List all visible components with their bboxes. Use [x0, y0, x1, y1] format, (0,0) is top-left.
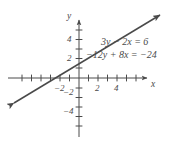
x-tick-label-2: 2 [95, 84, 100, 93]
x-axis [8, 75, 147, 82]
y-axis-label: y [67, 12, 71, 22]
y-tick-label-4: 4 [67, 35, 72, 44]
graph-figure: y x −2 2 4 4 2 −2 −4 3y − 2x = 6 −12y + … [0, 0, 174, 141]
x-axis-label: x [151, 80, 155, 90]
y-tick-label-2: 2 [67, 54, 72, 63]
y-tick-label-neg4: −4 [63, 107, 74, 116]
equation-label-primary: 3y − 2x = 6 [101, 37, 148, 47]
x-tick-label-4: 4 [114, 84, 119, 93]
y-tick-label-neg2: −2 [63, 88, 74, 97]
equation-label-secondary: −12y + 8x = −24 [86, 50, 157, 60]
coordinate-plane-svg [0, 0, 174, 141]
